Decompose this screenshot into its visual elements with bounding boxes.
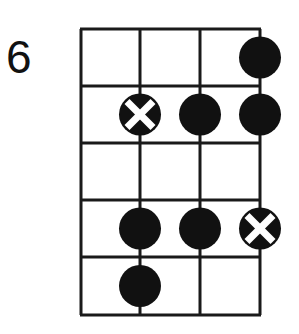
note-dot-icon xyxy=(239,94,281,136)
fret-lines xyxy=(80,29,261,315)
note-dot-icon xyxy=(179,94,221,136)
note-dot-icon xyxy=(179,208,221,250)
string-lines xyxy=(81,29,260,315)
root-x-marker-icon xyxy=(119,94,161,136)
fretboard-grid xyxy=(0,0,299,334)
note-dot-icon xyxy=(119,208,161,250)
root-x-marker-icon xyxy=(239,208,281,250)
note-dot-icon xyxy=(239,37,281,79)
note-dot-icon xyxy=(119,265,161,307)
